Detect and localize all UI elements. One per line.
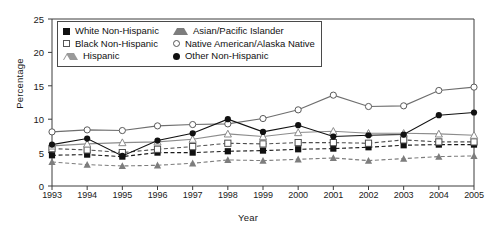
data-point <box>470 152 477 159</box>
data-point <box>400 155 407 162</box>
data-point <box>260 141 266 147</box>
data-point <box>154 123 160 129</box>
data-point <box>295 146 301 152</box>
filled-square-icon <box>63 28 70 35</box>
data-point <box>471 109 477 115</box>
filled-triangle-icon <box>173 28 188 35</box>
data-point <box>49 129 55 135</box>
data-point <box>189 160 196 167</box>
data-point <box>49 141 55 147</box>
series-asian-pacific-islander <box>48 152 477 169</box>
legend-label: White Non-Hispanic <box>75 25 159 38</box>
data-point <box>295 156 302 163</box>
legend-label: Native American/Alaska Native <box>185 38 315 51</box>
data-point <box>330 139 336 145</box>
data-point <box>471 84 477 90</box>
data-point <box>84 135 90 141</box>
data-point <box>119 153 125 159</box>
chart-legend: White Non-HispanicAsian/Pacific Islander… <box>57 21 322 67</box>
open-square-icon <box>63 40 70 47</box>
data-point <box>190 143 196 149</box>
data-point <box>225 116 231 122</box>
data-point <box>190 121 196 127</box>
data-point <box>436 139 442 145</box>
data-point <box>401 131 407 137</box>
legend-item[interactable]: Black Non-Hispanic <box>63 38 159 51</box>
data-point <box>49 152 55 158</box>
open-circle-icon <box>173 40 180 47</box>
legend-item[interactable]: Other Non-Hispanic <box>173 50 315 63</box>
data-point <box>190 130 196 136</box>
data-point <box>84 161 91 168</box>
data-point <box>225 140 231 146</box>
data-point <box>260 129 266 135</box>
data-point <box>260 115 266 121</box>
data-point <box>225 148 231 154</box>
series-native-american-alaska-native <box>49 84 477 135</box>
legend-label: Black Non-Hispanic <box>75 38 158 51</box>
data-point <box>330 145 336 151</box>
data-point <box>436 87 442 93</box>
series-line <box>52 87 474 132</box>
data-point <box>471 139 477 145</box>
data-point <box>365 132 371 138</box>
legend-label: Other Non-Hispanic <box>185 50 268 63</box>
data-point <box>365 103 371 109</box>
data-point <box>330 133 336 139</box>
data-point <box>295 122 301 128</box>
line-chart-figure: Percentage Year 0510152025 1993199419951… <box>0 0 496 230</box>
legend-item[interactable]: White Non-Hispanic <box>63 25 159 38</box>
legend-item[interactable]: Native American/Alaska Native <box>173 38 315 51</box>
data-point <box>154 146 160 152</box>
data-point <box>84 147 90 153</box>
legend-item[interactable]: Hispanic <box>63 50 159 63</box>
data-point <box>330 92 336 98</box>
data-point <box>295 107 301 113</box>
data-point <box>436 112 442 118</box>
legend-label: Asian/Pacific Islander <box>193 25 284 38</box>
data-point <box>190 150 196 156</box>
data-point <box>295 139 301 145</box>
open-triangle-icon <box>63 53 78 60</box>
data-point <box>119 127 125 133</box>
data-point <box>84 127 90 133</box>
filled-circle-icon <box>173 53 180 60</box>
legend-label: Hispanic <box>83 50 119 63</box>
legend-item[interactable]: Asian/Pacific Islander <box>173 25 315 38</box>
data-point <box>401 103 407 109</box>
data-point <box>260 147 266 153</box>
data-point <box>154 137 160 143</box>
data-point <box>365 140 371 146</box>
data-point <box>401 137 407 143</box>
